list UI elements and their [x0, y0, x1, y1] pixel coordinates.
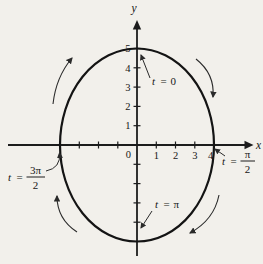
y-tick-label-4: 4 — [125, 63, 131, 74]
tpi-value: π — [174, 198, 180, 210]
figure-page: x y 1 2 3 4 1 2 3 4 5 0 t = 0 — [0, 0, 263, 264]
origin-label: 0 — [126, 149, 131, 160]
tpi2-eq: = — [231, 155, 237, 167]
y-axis-label: y — [130, 2, 137, 15]
t3pi2-denominator: 2 — [33, 179, 39, 191]
x-tick-label-2: 2 — [173, 150, 178, 161]
figure-canvas: x y 1 2 3 4 1 2 3 4 5 0 t = 0 — [0, 0, 263, 264]
direction-arrow-lower-right-icon — [190, 195, 219, 233]
t0-var: t — [152, 75, 156, 87]
t3pi2-leader-arrow-icon — [46, 153, 60, 171]
t3pi2-var: t — [8, 171, 12, 183]
tpi-eq: = — [164, 198, 170, 210]
y-tick-label-1: 1 — [125, 120, 130, 131]
x-tick-label-1: 1 — [154, 150, 159, 161]
t0-eq: = — [161, 75, 167, 87]
tpi-var: t — [155, 198, 159, 210]
t0-leader-arrow-icon — [141, 55, 150, 78]
y-tick-label-2: 2 — [125, 101, 130, 112]
tpi-leader-arrow-icon — [141, 211, 152, 228]
tpi2-denominator: 2 — [245, 163, 251, 175]
x-tick-label-3: 3 — [192, 150, 197, 161]
x-axis-label: x — [255, 139, 262, 151]
y-axis-arrowhead-icon — [133, 20, 141, 30]
t0-value: 0 — [171, 75, 177, 87]
y-tick-label-3: 3 — [125, 82, 130, 93]
tpi2-numerator: π — [245, 148, 251, 160]
direction-arrow-upper-right-icon — [196, 59, 213, 97]
tpi2-var: t — [222, 155, 226, 167]
t3pi2-eq: = — [17, 171, 23, 183]
param-label-t-pi-over-2: t = π 2 — [215, 148, 255, 175]
param-label-t-3pi-over-2: t = 3π 2 — [8, 153, 60, 191]
t3pi2-numerator: 3π — [30, 164, 42, 176]
param-label-t-pi: t = π — [141, 198, 180, 228]
